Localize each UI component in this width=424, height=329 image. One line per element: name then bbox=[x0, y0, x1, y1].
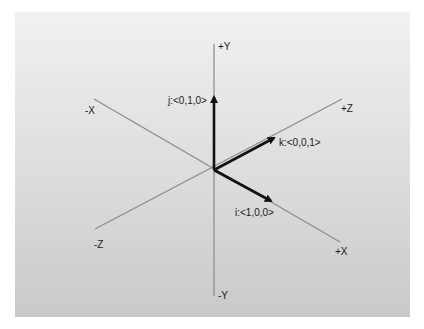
coordinate-axes-diagram: +Y -Y -X +X +Z -Z j:<0,1,0> k:<0,0,1> i:… bbox=[0, 0, 424, 329]
z-axis-line bbox=[95, 99, 342, 229]
j-vector-label: j:<0,1,0> bbox=[167, 95, 207, 106]
neg-y-label: -Y bbox=[218, 290, 228, 301]
pos-z-label: +Z bbox=[341, 103, 353, 114]
pos-y-label: +Y bbox=[218, 41, 231, 52]
k-vector-label: k:<0,0,1> bbox=[279, 137, 321, 148]
i-vector-arrow bbox=[214, 170, 271, 201]
pos-x-label: +X bbox=[335, 246, 348, 257]
neg-z-label: -Z bbox=[94, 239, 103, 250]
k-vector-arrow bbox=[214, 138, 274, 170]
i-vector-label: i:<1,0,0> bbox=[235, 207, 274, 218]
neg-x-label: -X bbox=[85, 105, 95, 116]
